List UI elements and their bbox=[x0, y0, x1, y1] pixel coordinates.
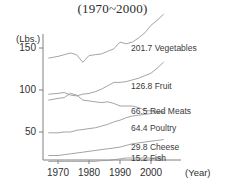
series-label-fruit: 126.8 Fruit bbox=[131, 81, 172, 91]
line-chart-plot bbox=[0, 0, 225, 191]
series-label-poultry: 64.4 Poultry bbox=[131, 123, 176, 133]
y-axis-tick-label-150: 150 bbox=[10, 42, 36, 53]
series-line-vegetables bbox=[49, 14, 164, 62]
chart-container: (1970~2000) (Lbs.) 150 100 50 1970 1980 … bbox=[0, 0, 225, 191]
x-axis-tick-label-2000: 2000 bbox=[136, 167, 166, 178]
x-axis-tick-label-1980: 1980 bbox=[74, 167, 104, 178]
x-axis-unit-label: (Year) bbox=[185, 167, 211, 178]
series-label-vegetables: 201.7 Vegetables bbox=[131, 43, 197, 53]
series-label-fish: 15.2 Fish bbox=[131, 153, 166, 163]
series-label-red-meats: 66.5 Red Meats bbox=[131, 106, 191, 116]
x-axis-tick-label-1990: 1990 bbox=[105, 167, 135, 178]
series-label-cheese: 29.8 Cheese bbox=[131, 142, 179, 152]
y-axis-tick-label-100: 100 bbox=[10, 84, 36, 95]
y-axis-tick-label-50: 50 bbox=[10, 126, 36, 137]
x-axis-tick-label-1970: 1970 bbox=[43, 167, 73, 178]
